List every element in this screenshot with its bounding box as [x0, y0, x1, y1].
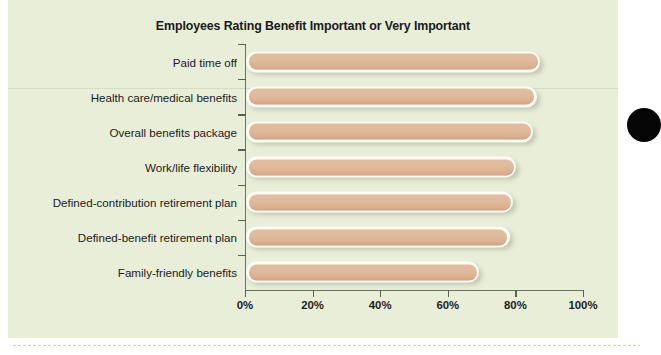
bar-outline [246, 192, 513, 213]
x-axis-tick [245, 290, 246, 297]
category-label: Work/life flexibility [13, 161, 237, 174]
bar-outline [246, 121, 533, 142]
bar-fill [249, 159, 514, 175]
bar-outline [246, 262, 479, 283]
bar-fill [249, 194, 511, 210]
x-axis-tick-label: 40% [369, 299, 392, 311]
x-axis-line [245, 290, 583, 291]
y-axis-tick [238, 79, 246, 80]
y-axis-tick [238, 185, 246, 186]
edge-dot-decoration [627, 108, 661, 142]
bar-fill [249, 124, 531, 140]
bar [246, 157, 516, 178]
bar-fill [249, 89, 535, 105]
y-axis-tick [238, 220, 246, 221]
category-label: Family-friendly benefits [13, 266, 237, 279]
x-axis-tick-label: 100% [568, 299, 597, 311]
x-axis-tick-label: 0% [237, 299, 253, 311]
bar-fill [249, 229, 508, 245]
dotted-divider-rule [12, 344, 640, 347]
category-label: Overall benefits package [13, 125, 237, 138]
bar [246, 192, 513, 213]
x-axis-tick [583, 290, 584, 297]
bar-outline [246, 86, 537, 107]
y-axis-tick [238, 114, 246, 115]
y-axis-tick [238, 149, 246, 150]
bar [246, 227, 510, 248]
category-label: Defined-contribution retirement plan [13, 196, 237, 209]
x-axis-tick [313, 290, 314, 297]
y-axis-tick [238, 44, 246, 45]
bar-fill [249, 264, 477, 280]
x-axis-tick [380, 290, 381, 297]
category-label: Paid time off [13, 55, 237, 68]
y-axis-tick [238, 255, 246, 256]
bar-fill [249, 54, 538, 70]
bar [246, 262, 479, 283]
category-label: Defined-benefit retirement plan [13, 231, 237, 244]
x-axis-tick-label: 60% [436, 299, 459, 311]
bar [246, 86, 537, 107]
bar [246, 121, 533, 142]
bar [246, 51, 540, 72]
x-axis-tick-label: 20% [301, 299, 324, 311]
bar-outline [246, 51, 540, 72]
x-axis-tick [448, 290, 449, 297]
x-axis-tick [515, 290, 516, 297]
x-axis-tick-label: 80% [504, 299, 527, 311]
chart-title: Employees Rating Benefit Important or Ve… [8, 19, 618, 33]
bar-outline [246, 227, 510, 248]
category-label: Health care/medical benefits [13, 90, 237, 103]
chart-panel: Employees Rating Benefit Important or Ve… [8, 0, 618, 338]
bar-outline [246, 157, 516, 178]
plot-area: 0%20%40%60%80%100% Paid time offHealth c… [245, 44, 583, 290]
